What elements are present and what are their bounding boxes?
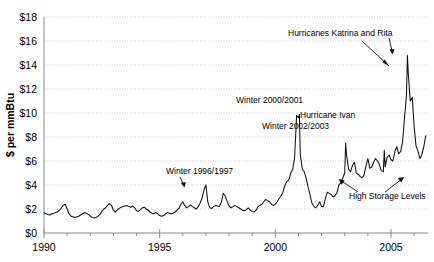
y-axis-tick-label: $12: [19, 83, 37, 95]
y-axis-tick-label: $6: [25, 155, 37, 167]
y-axis-title: $ per mmBtu: [4, 93, 16, 157]
y-axis-tick-label: $10: [19, 107, 37, 119]
annotation-label-winter1996: Winter 1996/1997: [166, 166, 233, 176]
y-axis-tick-label: $8: [25, 131, 37, 143]
y-axis-tick-label: $18: [19, 11, 37, 23]
annotation-label-katrina: Hurricanes Katrina and Rita: [288, 28, 393, 38]
annotation-label-ivan: Hurricane Ivan: [300, 110, 356, 120]
chart-background: [0, 0, 434, 262]
y-axis-tick-label: $4: [25, 179, 37, 191]
annotation-label-winter2002: Winter 2002/2003: [262, 121, 329, 131]
chart-canvas: $0$2$4$6$8$10$12$14$16$18 19901995200020…: [0, 0, 434, 262]
y-axis-tick-label: $16: [19, 35, 37, 47]
annotation-winter2000: Winter 2000/2001: [236, 95, 303, 105]
annotation-label-winter2000: Winter 2000/2001: [236, 95, 303, 105]
annotation-label-storage: High Storage Levels: [349, 191, 426, 201]
y-axis-tick-label: $0: [25, 227, 37, 239]
y-axis-tick-label: $14: [19, 59, 37, 71]
annotation-winter2002: Winter 2002/2003: [262, 121, 329, 131]
x-axis-tick-label: 1995: [148, 241, 172, 253]
y-axis-tick-label: $2: [25, 203, 37, 215]
x-axis-tick-label: 2000: [264, 241, 288, 253]
x-axis-tick-label: 2005: [379, 241, 403, 253]
gas-price-chart: $0$2$4$6$8$10$12$14$16$18 19901995200020…: [0, 0, 434, 262]
x-axis-tick-label: 1990: [32, 241, 56, 253]
annotation-ivan: Hurricane Ivan: [300, 110, 356, 120]
